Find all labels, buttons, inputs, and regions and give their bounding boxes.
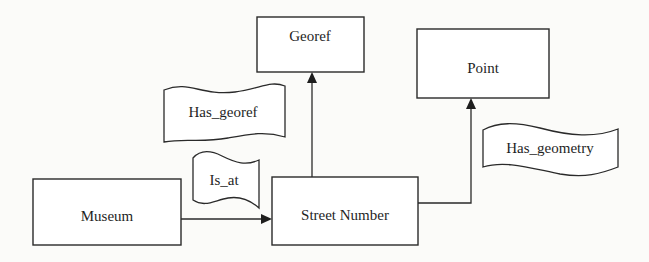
arrowhead-icon [466,98,476,109]
relation-label: Has_geometry [506,140,594,156]
node-label: Point [467,60,500,76]
node-street-number: Street Number [272,177,418,245]
ontology-diagram: Georef Point Museum Street Number Has_ge… [0,0,649,262]
node-label: Georef [289,28,331,44]
node-point: Point [417,29,549,98]
arrowhead-icon [307,72,317,83]
relation-has-georef: Has_georef [164,84,285,142]
node-label: Museum [81,208,134,224]
edge-has-geometry [418,98,476,203]
edge-has-georef [307,72,317,177]
relation-is-at: Is_at [193,152,259,208]
arrowhead-icon [261,214,272,224]
edge-is-at [181,214,272,224]
node-georef: Georef [257,17,364,72]
relation-label: Is_at [209,172,239,188]
node-museum: Museum [33,179,181,245]
node-label: Street Number [301,207,389,223]
relation-has-geometry: Has_geometry [483,124,618,176]
relation-label: Has_georef [188,104,257,120]
